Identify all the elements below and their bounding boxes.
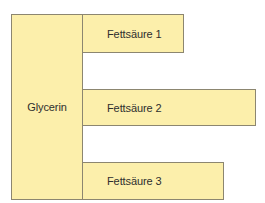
fatty-acid-3-label: Fettsäure 3 — [107, 175, 162, 187]
fatty-acid-1-box: Fettsäure 1 — [82, 14, 184, 53]
fatty-acid-1-label: Fettsäure 1 — [107, 28, 162, 40]
glycerin-label: Glycerin — [27, 101, 67, 113]
fatty-acid-2-box: Fettsäure 2 — [82, 89, 256, 126]
fatty-acid-3-box: Fettsäure 3 — [82, 162, 224, 200]
glycerin-box: Glycerin — [11, 14, 83, 200]
fatty-acid-2-label: Fettsäure 2 — [107, 102, 162, 114]
